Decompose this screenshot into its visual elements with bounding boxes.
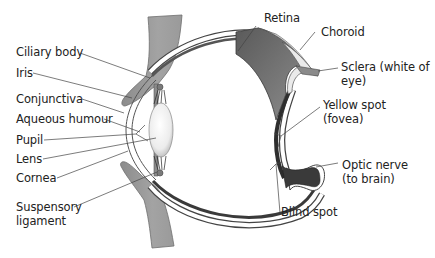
- label-yellow-spot: Yellow spot: [323, 98, 386, 112]
- label-pupil: Pupil: [16, 133, 43, 147]
- eye-diagram: Ciliary body Iris Conjunctiva Aqueous hu…: [0, 0, 435, 258]
- label-ciliary-body: Ciliary body: [16, 45, 83, 59]
- optic-nerve: [282, 165, 325, 191]
- lower-eyelid: [121, 162, 175, 248]
- lens-shape: [149, 103, 173, 157]
- label-suspensory-ligament: Suspensory: [16, 200, 82, 214]
- label-sclera-line2: eye): [341, 74, 366, 88]
- label-suspensory-ligament-line2: ligament: [16, 214, 66, 228]
- layer-cutaway: [236, 28, 320, 120]
- label-sclera: Sclera (white of: [341, 60, 429, 74]
- label-lens: Lens: [16, 152, 42, 166]
- label-optic-nerve: Optic nerve: [342, 158, 408, 172]
- label-iris: Iris: [16, 66, 33, 80]
- label-conjunctiva: Conjunctiva: [16, 92, 83, 106]
- label-choroid: Choroid: [321, 25, 365, 39]
- label-cornea: Cornea: [16, 171, 56, 185]
- label-optic-nerve-line2: (to brain): [342, 172, 395, 186]
- label-yellow-spot-line2: (fovea): [323, 112, 363, 126]
- label-blind-spot: Blind spot: [281, 205, 337, 219]
- label-aqueous-humour: Aqueous humour: [16, 112, 113, 126]
- label-retina: Retina: [264, 11, 300, 25]
